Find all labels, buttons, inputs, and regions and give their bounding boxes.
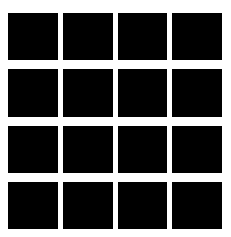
grid-cell bbox=[172, 182, 222, 229]
image-canvas bbox=[0, 0, 231, 237]
grid-cell bbox=[8, 69, 58, 116]
grid-cell bbox=[8, 126, 58, 173]
grid-cell bbox=[63, 69, 113, 116]
grid-cell bbox=[118, 126, 168, 173]
square-grid bbox=[8, 13, 222, 229]
grid-cell bbox=[118, 69, 168, 116]
grid-cell bbox=[63, 126, 113, 173]
grid-cell bbox=[63, 182, 113, 229]
grid-cell bbox=[172, 13, 222, 60]
grid-cell bbox=[63, 13, 113, 60]
grid-cell bbox=[8, 182, 58, 229]
grid-cell bbox=[172, 126, 222, 173]
grid-cell bbox=[8, 13, 58, 60]
grid-cell bbox=[172, 69, 222, 116]
grid-cell bbox=[118, 13, 168, 60]
grid-cell bbox=[118, 182, 168, 229]
